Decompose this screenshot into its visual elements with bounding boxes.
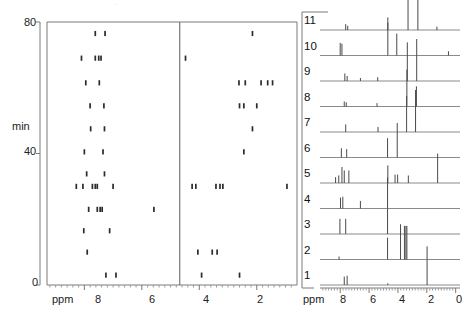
peak-dot <box>219 184 221 189</box>
y-tick-0: 0 <box>32 276 38 288</box>
spectrum-trace <box>320 154 460 183</box>
peak-dot <box>105 273 107 278</box>
trace-label-5: 5 <box>304 167 310 179</box>
left-x-tick-2: 2 <box>257 293 263 305</box>
spectrum-trace <box>320 246 460 285</box>
spectrum-trace <box>320 0 460 30</box>
peak-dot <box>256 103 258 108</box>
peak-dot <box>104 31 106 36</box>
peak-dot <box>185 56 187 61</box>
peak-dot <box>104 171 106 176</box>
y-axis-label-min: min <box>12 120 30 132</box>
peak-dot <box>195 184 197 189</box>
peak-dot-row <box>90 126 253 131</box>
peak-dot <box>85 80 87 85</box>
peak-dot <box>98 80 100 85</box>
peak-dot <box>153 207 155 212</box>
peak-dot <box>222 184 224 189</box>
peak-dot <box>96 184 98 189</box>
right-panel-plot <box>300 0 464 321</box>
peak-dot <box>96 207 98 212</box>
peak-dot <box>243 103 245 108</box>
peak-dot <box>103 103 105 108</box>
peak-dot <box>101 207 103 212</box>
spectrum-trace <box>320 123 460 157</box>
trace-label-4: 4 <box>304 193 310 205</box>
peak-dot-row <box>86 171 106 176</box>
peak-dot <box>92 184 94 189</box>
peak-dot <box>81 56 83 61</box>
peak-dot <box>115 273 117 278</box>
peak-dot <box>109 228 111 233</box>
right-x-tick-4: 4 <box>399 293 405 305</box>
peak-dot <box>86 250 88 255</box>
peak-dot <box>99 207 101 212</box>
y-tick-80: 80 <box>24 16 36 28</box>
peak-dot <box>286 184 288 189</box>
trace-label-6: 6 <box>304 142 310 154</box>
peak-dot <box>215 184 217 189</box>
trace-label-7: 7 <box>304 116 310 128</box>
trace-label-1: 1 <box>304 269 310 281</box>
peak-dot <box>211 250 213 255</box>
peak-dot <box>88 207 90 212</box>
peak-dot <box>272 80 274 85</box>
peak-dot-row <box>81 56 187 61</box>
peak-dot-row <box>86 250 218 255</box>
trace-label-3: 3 <box>304 218 310 230</box>
peak-dot-row <box>85 80 273 85</box>
spectrum-trace <box>320 39 460 81</box>
peak-dot <box>252 31 254 36</box>
right-x-tick-6: 6 <box>370 293 376 305</box>
spectrum-trace <box>320 23 460 56</box>
right-x-tick-0: 0 <box>456 293 462 305</box>
peak-dot <box>112 184 114 189</box>
trace-label-10: 10 <box>304 40 317 52</box>
peak-dot <box>244 80 246 85</box>
peak-dot-row <box>83 228 111 233</box>
peak-dot <box>102 149 104 154</box>
peak-dot <box>239 103 241 108</box>
trace-label-8: 8 <box>304 91 310 103</box>
peak-dot <box>216 250 218 255</box>
peak-dot <box>94 184 96 189</box>
peak-dot <box>84 149 86 154</box>
peak-dot <box>82 184 84 189</box>
peak-dot <box>94 56 96 61</box>
peak-dot-row <box>105 273 240 278</box>
left-x-axis-label-ppm: ppm <box>52 293 73 305</box>
left-panel-plot <box>0 0 310 321</box>
peak-dot <box>267 80 269 85</box>
peak-dot <box>243 149 245 154</box>
peak-dot <box>252 126 254 131</box>
trace-label-11: 11 <box>304 14 316 26</box>
left-x-tick-6: 6 <box>149 293 155 305</box>
peak-dot <box>89 103 91 108</box>
peak-dot-row <box>75 184 287 189</box>
peak-dot <box>75 184 77 189</box>
peak-dot-row <box>94 31 253 36</box>
peak-dot <box>98 56 100 61</box>
left-x-tick-4: 4 <box>203 293 209 305</box>
right-x-axis-label-ppm: ppm <box>303 293 324 305</box>
spectrum-trace <box>320 209 460 234</box>
trace-label-2: 2 <box>304 244 310 256</box>
left-x-tick-8: 8 <box>95 293 101 305</box>
peak-dot-group <box>75 31 287 278</box>
right-x-tick-2: 2 <box>428 293 434 305</box>
peak-dot <box>191 184 193 189</box>
figure-root: · 80 40 0 min ppm 8 6 4 2 ppm 8 6 4 2 0 … <box>0 0 464 321</box>
y-tick-40: 40 <box>24 145 36 157</box>
peak-dot <box>100 56 102 61</box>
spectrum-trace <box>320 224 460 259</box>
peak-dot <box>90 126 92 131</box>
peak-dot <box>83 228 85 233</box>
trace-label-9: 9 <box>304 65 310 77</box>
peak-dot <box>239 273 241 278</box>
peak-dot <box>201 273 203 278</box>
peak-dot-row <box>88 207 155 212</box>
spectrum-trace <box>320 90 460 132</box>
spectrum-trace <box>320 177 460 208</box>
peak-dot <box>104 126 106 131</box>
peak-dot-row <box>89 103 257 108</box>
